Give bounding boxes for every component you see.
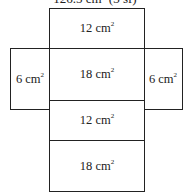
face-label: 6 cm2: [149, 72, 177, 87]
face-lower: 12 cm2: [49, 100, 145, 141]
face-left: 6 cm2: [10, 48, 50, 110]
face-right: 6 cm2: [143, 48, 183, 110]
face-label: 18 cm2: [80, 159, 114, 174]
caption-total-area: 126.5 cm² (3 sf): [0, 0, 190, 6]
face-top: 12 cm2: [49, 8, 145, 49]
face-label: 6 cm2: [16, 72, 44, 87]
face-bottom: 18 cm2: [49, 140, 145, 192]
face-label: 12 cm2: [80, 113, 114, 128]
face-label: 12 cm2: [80, 21, 114, 36]
face-center: 18 cm2: [49, 48, 145, 101]
face-label: 18 cm2: [80, 67, 114, 82]
